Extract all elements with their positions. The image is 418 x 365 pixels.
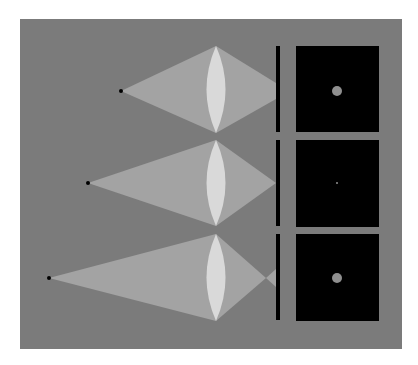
blur-spot bbox=[332, 86, 342, 96]
lens-focus-diagram bbox=[0, 0, 418, 365]
screen-bar bbox=[276, 140, 280, 226]
screen-bar bbox=[276, 234, 280, 320]
screen-bar bbox=[276, 46, 280, 132]
focused-point bbox=[336, 182, 338, 184]
point-source bbox=[86, 181, 90, 185]
point-source bbox=[119, 89, 123, 93]
point-source bbox=[47, 276, 51, 280]
blur-spot bbox=[332, 273, 342, 283]
